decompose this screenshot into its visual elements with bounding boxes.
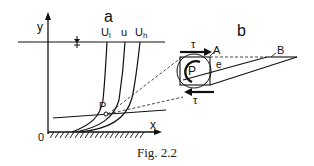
- figure-caption: Fig. 2.2: [137, 145, 177, 160]
- bottom-stress-arrow-icon: [184, 88, 192, 96]
- y-axis-label: y: [37, 20, 43, 34]
- curve-label-ul: Ul: [101, 26, 111, 40]
- profile-ul: [72, 42, 107, 132]
- panel-a: y x 0 a Ul u Uh: [18, 8, 183, 143]
- panel-b: b P τ τ A B e: [177, 22, 297, 106]
- y-axis-arrow-icon: [45, 12, 51, 20]
- point-p-label-b: P: [188, 64, 196, 78]
- point-p-label: P: [99, 100, 106, 112]
- top-stress-label: τ: [191, 38, 196, 50]
- ground-hatching: [48, 132, 144, 138]
- origin-label: 0: [38, 131, 44, 143]
- figure-2-2: y x 0 a Ul u Uh: [0, 0, 314, 166]
- curve-label-u: u: [121, 26, 127, 38]
- panel-a-label: a: [104, 8, 113, 25]
- curve-label-uh: Uh: [135, 26, 147, 40]
- panel-b-label: b: [237, 22, 246, 39]
- angle-label: e: [216, 59, 222, 70]
- corner-b-label: B: [277, 44, 284, 56]
- profile-uh: [80, 42, 140, 132]
- profile-u: [76, 42, 125, 132]
- bottom-stress-label: τ: [193, 94, 198, 106]
- corner-a-label: A: [213, 44, 221, 56]
- point-p-marker: [104, 112, 108, 116]
- x-axis-label: x: [150, 118, 156, 132]
